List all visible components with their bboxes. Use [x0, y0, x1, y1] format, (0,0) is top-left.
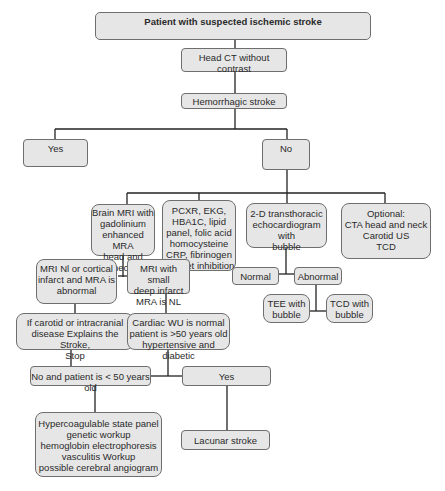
node-cardiac-wu: Cardiac WU is normal patient is >50 year… [127, 313, 230, 350]
node-hypercoagulable-workup: Hypercoagulable state panel genetic work… [35, 412, 162, 477]
node-label: Hemorrhagic stroke [182, 96, 286, 107]
node-label: 2-D transthoracic echocardiogram with bu… [247, 208, 326, 252]
node-label: Normal [233, 271, 278, 282]
node-label: Head CT without contrast [182, 52, 286, 74]
node-head-ct: Head CT without contrast [181, 48, 287, 72]
node-echo-abnormal: Abnormal [294, 267, 342, 285]
node-tee-bubble: TEE with bubble [263, 294, 310, 323]
node-label: Patient with suspected ischemic stroke [96, 16, 370, 27]
node-mri-normal-cortical: MRI Nl or cortical infarct and MRA is ab… [36, 259, 117, 304]
node-label: MRI Nl or cortical infarct and MRA is ab… [37, 263, 116, 296]
node-no-hemorrhagic: No [262, 139, 310, 170]
node-label: Lacunar stroke [182, 435, 269, 446]
node-label: Yes [24, 143, 87, 154]
node-label: Abnormal [295, 271, 341, 282]
node-brain-mri: Brain MRI with gadolinium enhanced MRA h… [91, 204, 155, 256]
node-label: Cardiac WU is normal patient is >50 year… [128, 317, 229, 361]
node-yes-lacunar: Yes [182, 366, 271, 386]
node-tcd-bubble: TCD with bubble [326, 294, 373, 323]
node-lacunar-stroke: Lacunar stroke [181, 430, 270, 450]
node-label: No and patient is < 50 years old [31, 371, 150, 393]
node-label: No [263, 143, 309, 154]
node-mri-small-deep: MRI with small deep infarct MRA is NL [127, 259, 190, 294]
node-label: Optional: CTA head and neck Carotid US T… [342, 208, 430, 252]
node-hemorrhagic-stroke: Hemorrhagic stroke [181, 93, 287, 109]
node-label: If carotid or intracranial disease Expla… [17, 317, 133, 361]
node-echocardiogram: 2-D transthoracic echocardiogram with bu… [246, 203, 327, 248]
node-yes-hemorrhagic: Yes [23, 139, 88, 167]
node-label: Yes [183, 371, 270, 382]
node-no-under-50: No and patient is < 50 years old [30, 366, 151, 386]
node-label: Hypercoagulable state panel genetic work… [36, 418, 161, 473]
node-optional-imaging: Optional: CTA head and neck Carotid US T… [341, 203, 431, 259]
node-carotid-stop: If carotid or intracranial disease Expla… [16, 313, 134, 350]
node-echo-normal: Normal [232, 267, 279, 285]
node-label: TCD with bubble [327, 298, 372, 320]
node-label: MRI with small deep infarct MRA is NL [128, 263, 189, 307]
node-label: TEE with bubble [264, 298, 309, 320]
node-start: Patient with suspected ischemic stroke [95, 12, 371, 40]
